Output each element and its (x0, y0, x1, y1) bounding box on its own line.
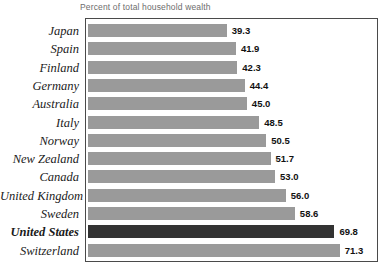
bar (88, 79, 245, 92)
bar-value-label: 56.0 (291, 188, 310, 203)
bar (88, 207, 295, 220)
bar (88, 42, 236, 55)
bar-value-label: 42.3 (242, 60, 261, 75)
bar-row-label: Switzerland (0, 242, 79, 260)
bar-value-label: 51.7 (276, 151, 295, 166)
bar-row: Spain41.9 (0, 40, 390, 58)
bar-value-label: 69.8 (339, 224, 358, 239)
bar-value-label: 53.0 (280, 169, 299, 184)
bar-row: United States69.8 (0, 223, 390, 241)
bar-row-label: Germany (0, 77, 79, 95)
bar-row: Japan39.3 (0, 22, 390, 40)
bar (88, 24, 227, 37)
bar (88, 170, 275, 183)
bar-row: Italy48.5 (0, 114, 390, 132)
bar-row: Norway50.5 (0, 132, 390, 150)
bar-value-label: 58.6 (300, 206, 319, 221)
bar (88, 225, 334, 238)
bar-value-label: 50.5 (271, 133, 290, 148)
bar-row: Switzerland71.3 (0, 242, 390, 260)
bar-value-label: 44.4 (250, 78, 269, 93)
bar (88, 244, 340, 257)
bar-row-label: Australia (0, 95, 79, 113)
bar-row-label: United Kingdom (0, 187, 79, 205)
bar-value-label: 45.0 (252, 96, 271, 111)
bar (88, 61, 237, 74)
bar-row-label: Norway (0, 132, 79, 150)
bar (88, 152, 271, 165)
bar-row-label: Italy (0, 114, 79, 132)
bar-value-label: 71.3 (345, 243, 364, 258)
bar (88, 116, 259, 129)
bar-row: Australia45.0 (0, 95, 390, 113)
bar (88, 134, 266, 147)
bar-row: Sweden58.6 (0, 205, 390, 223)
bar-row-label: Japan (0, 22, 79, 40)
bar-row-label: Canada (0, 168, 79, 186)
bar (88, 97, 247, 110)
bar (88, 189, 286, 202)
bar-row-label: Spain (0, 40, 79, 58)
bar-row: Canada53.0 (0, 168, 390, 186)
bar-row: New Zealand51.7 (0, 150, 390, 168)
bar-row-label: Finland (0, 59, 79, 77)
bar-row-label: New Zealand (0, 150, 79, 168)
bar-row-label: United States (0, 223, 79, 241)
bar-row: United Kingdom56.0 (0, 187, 390, 205)
bar-row: Germany44.4 (0, 77, 390, 95)
bar-row: Finland42.3 (0, 59, 390, 77)
bar-value-label: 48.5 (264, 115, 283, 130)
bar-chart: Percent of total household wealth Japan3… (0, 0, 390, 272)
bar-row-label: Sweden (0, 205, 79, 223)
bar-value-label: 39.3 (232, 23, 251, 38)
bar-rows: Japan39.3Spain41.9Finland42.3Germany44.4… (0, 18, 390, 262)
chart-title: Percent of total household wealth (80, 2, 211, 12)
bar-value-label: 41.9 (241, 41, 260, 56)
